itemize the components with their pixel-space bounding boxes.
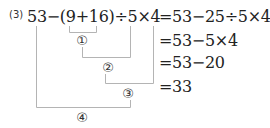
- original-expression: 53−(9+16)÷5×4: [27, 9, 160, 25]
- step-3: =53−20: [159, 55, 225, 71]
- bracket-step-3: [106, 26, 154, 84]
- step-4: =33: [159, 79, 192, 95]
- bracket-step-2: [83, 26, 131, 58]
- order-label-3: ③: [122, 87, 134, 100]
- order-label-1: ①: [76, 34, 88, 47]
- order-label-4: ④: [76, 111, 88, 124]
- step-1: =53−25÷5×4: [159, 9, 270, 25]
- problem-number: (3): [9, 10, 23, 20]
- step-2: =53−5×4: [159, 33, 238, 49]
- order-label-2: ②: [102, 61, 114, 74]
